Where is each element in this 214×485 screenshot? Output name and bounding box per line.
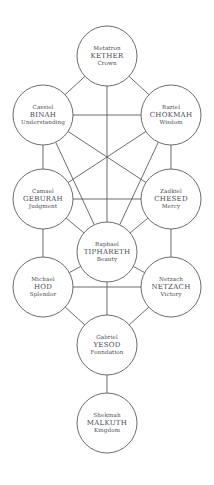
path-chesed-tiphareth — [130, 218, 148, 233]
path-netzach-yesod — [129, 307, 149, 325]
path-tiphareth-hod — [69, 266, 80, 272]
sephira-circle-geburah[interactable] — [13, 169, 73, 229]
path-kether-binah — [65, 76, 85, 94]
sephira-circle-malkuth[interactable] — [77, 393, 137, 453]
sephira-circle-hod[interactable] — [13, 257, 73, 317]
sephira-circle-chesed[interactable] — [141, 169, 201, 229]
tree-of-life-svg — [0, 0, 214, 485]
sephira-circle-kether[interactable] — [77, 26, 137, 86]
path-hod-yesod — [65, 307, 85, 325]
path-kether-chokmah — [129, 76, 149, 94]
path-tiphareth-netzach — [133, 266, 144, 272]
path-geburah-tiphareth — [66, 218, 84, 233]
sephira-circle-yesod[interactable] — [77, 315, 137, 375]
sephira-circle-binah[interactable] — [13, 85, 73, 145]
sephira-circle-netzach[interactable] — [141, 257, 201, 317]
sephira-circle-tiphareth[interactable] — [77, 222, 137, 282]
sephira-circle-chokmah[interactable] — [141, 85, 201, 145]
tree-of-life-diagram: MetatronKETHERCrownCassielBINAHUnderstan… — [0, 0, 214, 485]
